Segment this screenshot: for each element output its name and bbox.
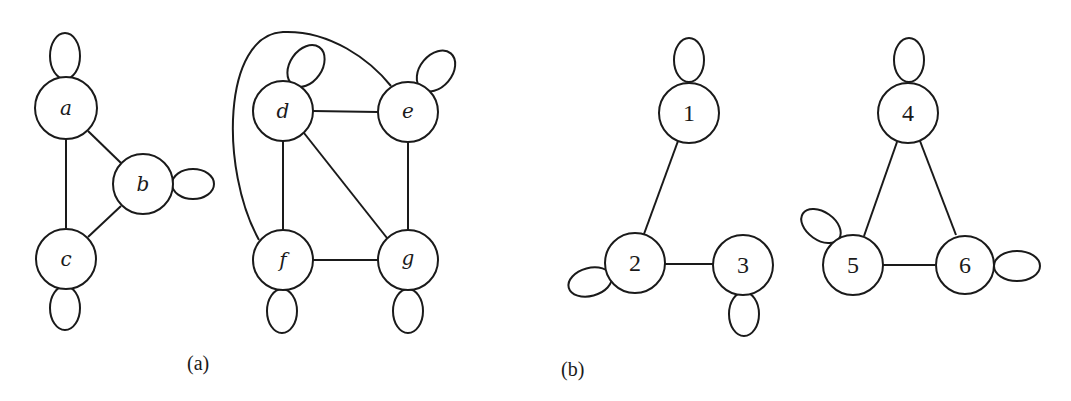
graph-figure: a b c d e f g 1 2 3 bbox=[0, 0, 1071, 401]
edge-4-6 bbox=[920, 141, 956, 235]
node-b-label: b bbox=[137, 172, 150, 196]
node-5-label: 5 bbox=[847, 252, 859, 278]
self-loop-b bbox=[172, 169, 214, 199]
self-loop-1 bbox=[674, 38, 704, 82]
self-loop-f bbox=[267, 289, 297, 333]
self-loop-g bbox=[393, 289, 423, 333]
node-6-label: 6 bbox=[959, 252, 971, 278]
node-1-label: 1 bbox=[683, 100, 695, 126]
edge-b-c bbox=[88, 206, 121, 237]
edge-d-e bbox=[313, 111, 378, 112]
panel-b-graph-123: 1 2 3 bbox=[565, 38, 773, 336]
node-c-label: c bbox=[60, 247, 71, 271]
caption-panel-b: (b) bbox=[561, 358, 584, 381]
panel-b-graph-456: 4 5 6 bbox=[795, 38, 1040, 295]
panel-a-graph-abc: a b c bbox=[35, 33, 214, 330]
self-loop-a bbox=[50, 33, 80, 79]
node-3-label: 3 bbox=[737, 252, 749, 278]
panel-a-graph-defg: d e f g bbox=[233, 32, 463, 333]
node-a-label: a bbox=[60, 96, 72, 120]
edge-d-g bbox=[304, 133, 387, 238]
edge-a-b bbox=[88, 131, 121, 163]
node-e-label: e bbox=[402, 99, 414, 123]
self-loop-4 bbox=[894, 38, 924, 82]
self-loop-6 bbox=[994, 251, 1040, 281]
edge-1-2 bbox=[644, 141, 678, 234]
node-2-label: 2 bbox=[629, 250, 641, 276]
self-loop-c bbox=[50, 286, 80, 330]
edge-4-5 bbox=[864, 142, 897, 236]
caption-panel-a: (a) bbox=[187, 352, 209, 375]
node-4-label: 4 bbox=[902, 100, 914, 126]
node-g-label: g bbox=[402, 246, 415, 270]
node-d-label: d bbox=[277, 99, 290, 123]
self-loop-3 bbox=[729, 292, 759, 336]
